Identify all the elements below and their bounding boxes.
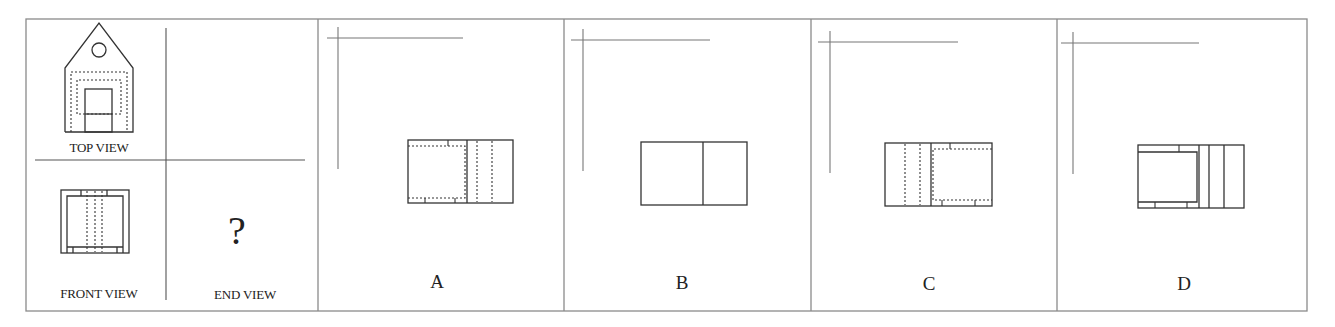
- given-views-panel: [35, 23, 305, 300]
- outer-frame: [26, 19, 1307, 311]
- option-d-label[interactable]: D: [1177, 273, 1191, 295]
- option-d-drawing[interactable]: [1061, 32, 1244, 208]
- option-b-label[interactable]: B: [676, 272, 689, 294]
- front-view-label: FRONT VIEW: [60, 286, 137, 302]
- orthographic-projection-diagram: [0, 0, 1335, 327]
- unknown-end-view-marker: ?: [228, 207, 246, 254]
- top-view-drawing: [65, 23, 133, 132]
- option-a-label[interactable]: A: [430, 271, 444, 293]
- option-c-label[interactable]: C: [923, 273, 936, 295]
- end-view-label: END VIEW: [214, 287, 276, 303]
- option-c-drawing[interactable]: [818, 31, 992, 206]
- front-view-drawing: [61, 190, 129, 253]
- option-a-drawing[interactable]: [327, 27, 513, 203]
- option-b-drawing[interactable]: [571, 29, 747, 205]
- top-view-label: TOP VIEW: [69, 140, 128, 156]
